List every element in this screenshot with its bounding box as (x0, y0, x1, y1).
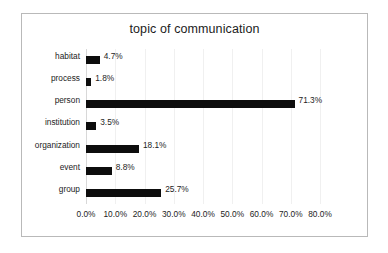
bar-row: institution3.5% (86, 115, 368, 137)
bar-row: person71.3% (86, 93, 368, 115)
x-tick-label: 30.0% (162, 209, 186, 219)
bar-row: organization18.1% (86, 138, 368, 160)
category-label: process (51, 73, 80, 83)
bar-value-label: 4.7% (104, 51, 123, 61)
chart-figure: topic of communication habitat4.7%proces… (21, 13, 368, 237)
bar-value-label: 8.8% (116, 162, 135, 172)
x-tick-label: 60.0% (250, 209, 274, 219)
bar-value-label: 25.7% (165, 184, 189, 194)
category-label: event (60, 162, 80, 172)
x-tick-label: 40.0% (191, 209, 215, 219)
bar-row: group25.7% (86, 182, 368, 204)
bar[interactable] (86, 78, 91, 86)
bar-value-label: 71.3% (299, 95, 323, 105)
category-label: organization (35, 140, 80, 150)
x-tick-label: 20.0% (133, 209, 157, 219)
x-tick-label: 70.0% (279, 209, 303, 219)
bar-row: habitat4.7% (86, 49, 368, 71)
bar[interactable] (86, 100, 295, 108)
bar-value-label: 3.5% (100, 117, 119, 127)
bar[interactable] (86, 56, 100, 64)
bar-value-label: 18.1% (143, 140, 167, 150)
chart-title: topic of communication (22, 22, 367, 36)
category-label: institution (45, 117, 80, 127)
bar[interactable] (86, 145, 139, 153)
x-tick-label: 10.0% (103, 209, 127, 219)
x-tick-label: 80.0% (308, 209, 332, 219)
bar[interactable] (86, 167, 112, 175)
plot-area: habitat4.7%process1.8%person71.3%institu… (86, 49, 320, 204)
x-tick-label: 50.0% (220, 209, 244, 219)
category-label: habitat (55, 51, 80, 61)
bar[interactable] (86, 189, 161, 197)
bar-value-label: 1.8% (95, 73, 114, 83)
category-label: group (59, 184, 80, 194)
bar-row: process1.8% (86, 71, 368, 93)
category-label: person (55, 95, 80, 105)
x-tick-label: 0.0% (77, 209, 96, 219)
x-axis-tick-labels: 0.0%10.0%20.0%30.0%40.0%50.0%60.0%70.0%8… (86, 209, 320, 223)
bar-row: event8.8% (86, 160, 368, 182)
bar[interactable] (86, 122, 96, 130)
